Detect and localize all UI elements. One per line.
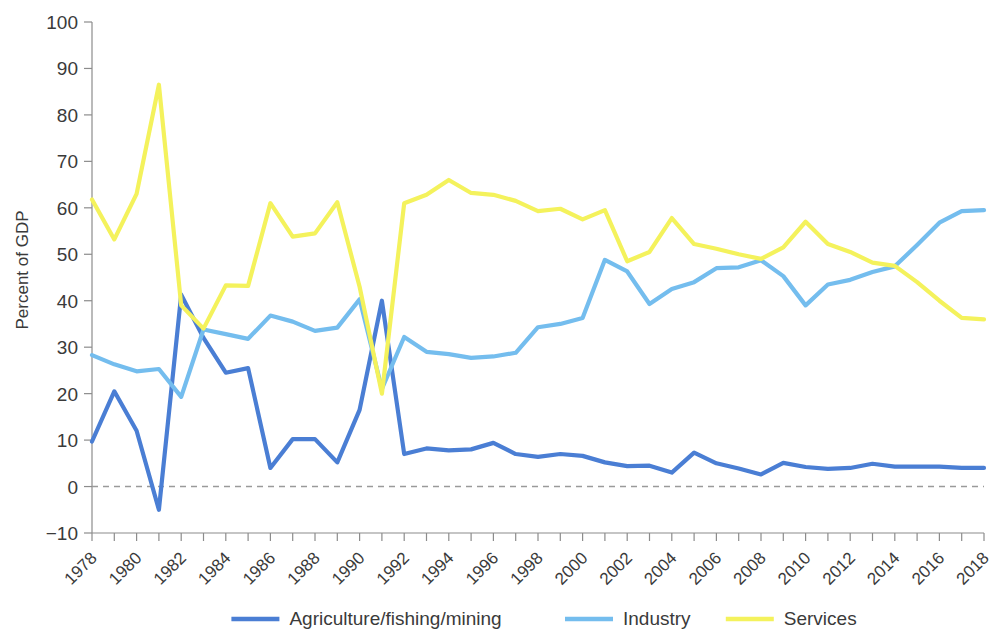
- y-axis-tick-label: 90: [57, 58, 78, 79]
- y-axis-tick-label: 30: [57, 337, 78, 358]
- x-axis-tick-label: 1996: [462, 548, 502, 588]
- y-axis-tick-label: 70: [57, 151, 78, 172]
- y-axis-tick-label: 20: [57, 384, 78, 405]
- x-axis-tick-label: 1978: [61, 548, 101, 588]
- y-axis-label: Percent of GDP: [13, 210, 32, 329]
- x-axis-tick-label: 1998: [507, 548, 547, 588]
- y-axis-tick-label: 60: [57, 198, 78, 219]
- x-axis-tick-label: 2000: [551, 548, 591, 588]
- line-chart: Percent of GDP −100102030405060708090100…: [0, 0, 1001, 636]
- y-axis-tick-label: 100: [46, 12, 78, 33]
- x-axis-tick-label: 2014: [863, 548, 903, 588]
- x-axis-tick-label: 2010: [774, 548, 814, 588]
- legend-label-agriculture-fishing-mining: Agriculture/fishing/mining: [289, 608, 501, 629]
- x-axis-tick-label: 2016: [908, 548, 948, 588]
- series-line-services: [92, 85, 984, 394]
- y-axis-tick-label: 0: [67, 477, 78, 498]
- x-axis-tick-label: 2002: [596, 548, 636, 588]
- x-axis-tick-label: 1980: [105, 548, 145, 588]
- legend-label-services: Services: [784, 608, 857, 629]
- x-axis-tick-label: 1986: [239, 548, 279, 588]
- x-axis-tick-label: 2018: [953, 548, 993, 588]
- y-axis-label-text: Percent of GDP: [13, 210, 32, 329]
- chart-container: Percent of GDP −100102030405060708090100…: [0, 0, 1001, 636]
- y-axis-tick-label: 10: [57, 430, 78, 451]
- y-axis-tick-label: 40: [57, 291, 78, 312]
- x-axis-tick-label: 1984: [194, 548, 234, 588]
- y-axis-tick-label: 80: [57, 105, 78, 126]
- x-axis-tick-label: 2006: [685, 548, 725, 588]
- x-axis: 1978198019821984198619881990199219941996…: [61, 533, 993, 589]
- x-axis-tick-label: 1982: [150, 548, 190, 588]
- series-group: [92, 85, 984, 510]
- x-axis-tick-label: 1988: [284, 548, 324, 588]
- x-axis-tick-label: 2004: [640, 548, 680, 588]
- x-axis-tick-label: 1992: [373, 548, 413, 588]
- x-axis-tick-label: 2008: [730, 548, 770, 588]
- legend-label-industry: Industry: [623, 608, 691, 629]
- y-axis-tick-label: −10: [46, 523, 78, 544]
- chart-legend: Agriculture/fishing/miningIndustryServic…: [231, 608, 856, 629]
- x-axis-tick-label: 2012: [819, 548, 859, 588]
- x-axis-tick-label: 1990: [328, 548, 368, 588]
- x-axis-tick-label: 1994: [417, 548, 457, 588]
- y-axis: −100102030405060708090100: [46, 12, 92, 544]
- y-axis-tick-label: 50: [57, 244, 78, 265]
